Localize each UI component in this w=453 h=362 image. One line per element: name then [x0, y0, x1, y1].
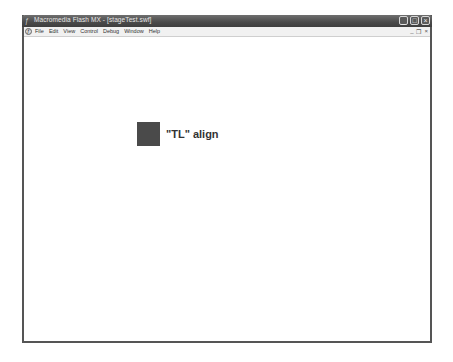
- menu-items: File Edit View Control Debug Window Help: [35, 28, 160, 34]
- menu-debug[interactable]: Debug: [103, 28, 119, 34]
- menu-control[interactable]: Control: [80, 28, 98, 34]
- menu-view[interactable]: View: [63, 28, 75, 34]
- maximize-button[interactable]: □: [410, 16, 419, 25]
- menu-window[interactable]: Window: [124, 28, 144, 34]
- doc-restore-button[interactable]: ❐: [416, 28, 421, 35]
- doc-close-button[interactable]: ×: [424, 28, 428, 35]
- close-button[interactable]: ×: [421, 16, 430, 25]
- flash-player-window: ƒ Macromedia Flash MX - [stageTest.swf] …: [22, 15, 432, 343]
- menu-edit[interactable]: Edit: [49, 28, 58, 34]
- flash-document-icon[interactable]: ƒ: [25, 28, 32, 35]
- doc-minimize-button[interactable]: _: [410, 28, 413, 35]
- document-controls: _ ❐ ×: [410, 28, 428, 35]
- minimize-button[interactable]: _: [399, 16, 408, 25]
- flash-stage: "TL" align: [24, 37, 430, 341]
- menu-help[interactable]: Help: [149, 28, 160, 34]
- menu-file[interactable]: File: [35, 28, 44, 34]
- align-label: "TL" align: [166, 128, 219, 140]
- dark-square-movieclip: [137, 122, 160, 146]
- title-bar[interactable]: ƒ Macromedia Flash MX - [stageTest.swf] …: [22, 15, 432, 27]
- flash-app-icon: ƒ: [25, 17, 31, 24]
- menu-bar: ƒ File Edit View Control Debug Window He…: [24, 27, 430, 37]
- window-title: Macromedia Flash MX - [stageTest.swf]: [34, 16, 152, 23]
